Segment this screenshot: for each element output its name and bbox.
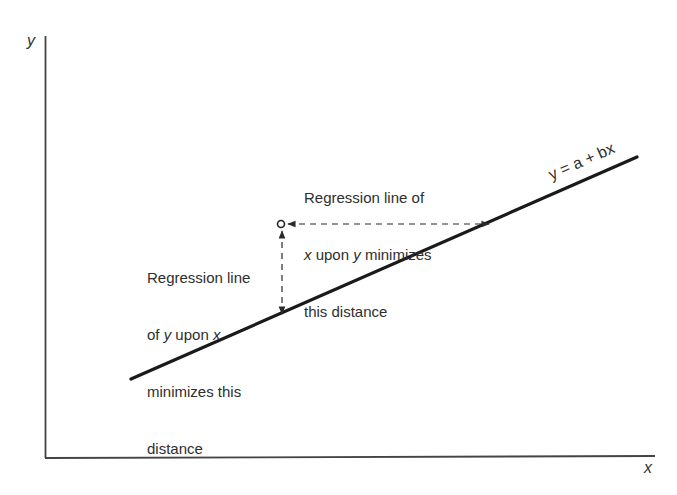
annotation-line: this distance bbox=[304, 302, 432, 321]
annotation-line: of y upon x bbox=[147, 325, 250, 344]
x-axis bbox=[45, 456, 655, 458]
annotation-line: Regression line bbox=[147, 268, 250, 287]
annotation-line: minimizes this bbox=[147, 382, 250, 401]
data-point bbox=[278, 221, 285, 228]
var-y: y bbox=[353, 246, 361, 263]
var-x: x bbox=[304, 246, 312, 263]
x-axis-label: x bbox=[644, 459, 652, 477]
annotation-text: of bbox=[147, 326, 164, 343]
annotation-line: Regression line of bbox=[304, 188, 432, 207]
var-x: x bbox=[213, 326, 221, 343]
annotation-x-upon-y: Regression line of x upon y minimizes th… bbox=[304, 150, 432, 340]
annotation-text: upon bbox=[312, 246, 354, 263]
annotation-text: minimizes bbox=[361, 246, 432, 263]
y-axis-label: y bbox=[27, 32, 35, 50]
annotation-line: distance bbox=[147, 439, 250, 458]
annotation-text: upon bbox=[171, 326, 213, 343]
annotation-line: x upon y minimizes bbox=[304, 245, 432, 264]
annotation-y-upon-x: Regression line of y upon x minimizes th… bbox=[147, 230, 250, 477]
